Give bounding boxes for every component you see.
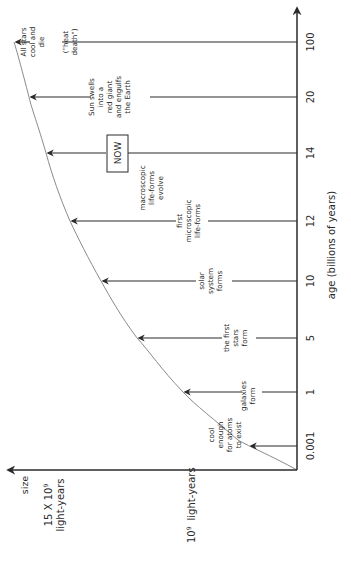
age-axis-label: age (billions of years) (326, 191, 337, 299)
tick-12: 12 (305, 215, 316, 228)
tick-10: 10 (305, 275, 316, 288)
svg-text:life-forms: life-forms (193, 204, 202, 238)
label-heat-death: All stars cool and die ("heat death") (19, 27, 79, 58)
svg-text:cool: cool (207, 428, 216, 443)
tick-14: 14 (305, 147, 316, 160)
svg-text:form: form (248, 388, 257, 405)
svg-text:galaxies: galaxies (239, 381, 248, 411)
svg-text:("heat: ("heat (61, 31, 70, 53)
svg-text:the first: the first (222, 324, 231, 352)
svg-text:die: die (37, 36, 46, 48)
svg-text:form: form (240, 330, 249, 347)
label-red-giant: Sun swells into a red giant and engulfs … (87, 76, 132, 118)
svg-text:red giant: red giant (105, 81, 114, 114)
size-1e9-marker: 109light-years (185, 467, 197, 543)
svg-text:Sun swells: Sun swells (87, 78, 96, 116)
svg-text:microscopic: microscopic (184, 200, 193, 243)
tick-5: 5 (305, 335, 316, 341)
svg-text:life-forms: life-forms (147, 171, 156, 205)
size-axis-label: size (19, 476, 30, 495)
tick-20: 20 (305, 91, 316, 104)
label-microscopic-life: first microscopic life-forms (175, 200, 202, 243)
label-galaxies: galaxies form (239, 381, 257, 411)
label-macroscopic-life: macroscopic life-forms evolve (138, 165, 165, 210)
svg-text:evolve: evolve (156, 176, 165, 200)
label-first-stars: the first stars form (222, 324, 249, 352)
svg-text:109light-years: 109light-years (185, 467, 197, 543)
expansion-curve (14, 42, 297, 470)
svg-text:first: first (175, 214, 184, 228)
svg-text:forms: forms (215, 271, 224, 292)
svg-text:the Earth: the Earth (123, 80, 132, 113)
svg-text:enough: enough (216, 421, 225, 448)
svg-text:15 X 109: 15 X 109 (42, 484, 54, 527)
svg-text:death"): death") (70, 28, 79, 55)
svg-text:cool and: cool and (28, 27, 37, 58)
label-atoms: cool enough for atoms to exist (207, 417, 243, 452)
tick-100: 100 (305, 32, 316, 51)
now-label: NOW (113, 142, 123, 165)
tick-0001: 0.001 (305, 432, 316, 461)
svg-text:system: system (206, 268, 215, 294)
svg-text:into a: into a (96, 87, 105, 107)
svg-text:solar: solar (197, 272, 206, 290)
svg-text:to exist: to exist (234, 422, 243, 449)
event-arrows (16, 42, 297, 446)
svg-text:for atoms: for atoms (225, 417, 234, 452)
svg-text:light-years: light-years (55, 478, 66, 531)
svg-text:All stars: All stars (19, 27, 28, 56)
tick-1: 1 (305, 389, 316, 395)
label-solar-system: solar system forms (197, 268, 224, 294)
svg-text:stars: stars (231, 329, 240, 347)
svg-text:and engulfs: and engulfs (114, 76, 123, 118)
svg-text:macroscopic: macroscopic (138, 165, 147, 210)
universe-expansion-diagram: NOW All stars cool and die ("heat death"… (0, 0, 351, 568)
size-15e9-marker: 15 X 109 light-years (42, 478, 66, 531)
